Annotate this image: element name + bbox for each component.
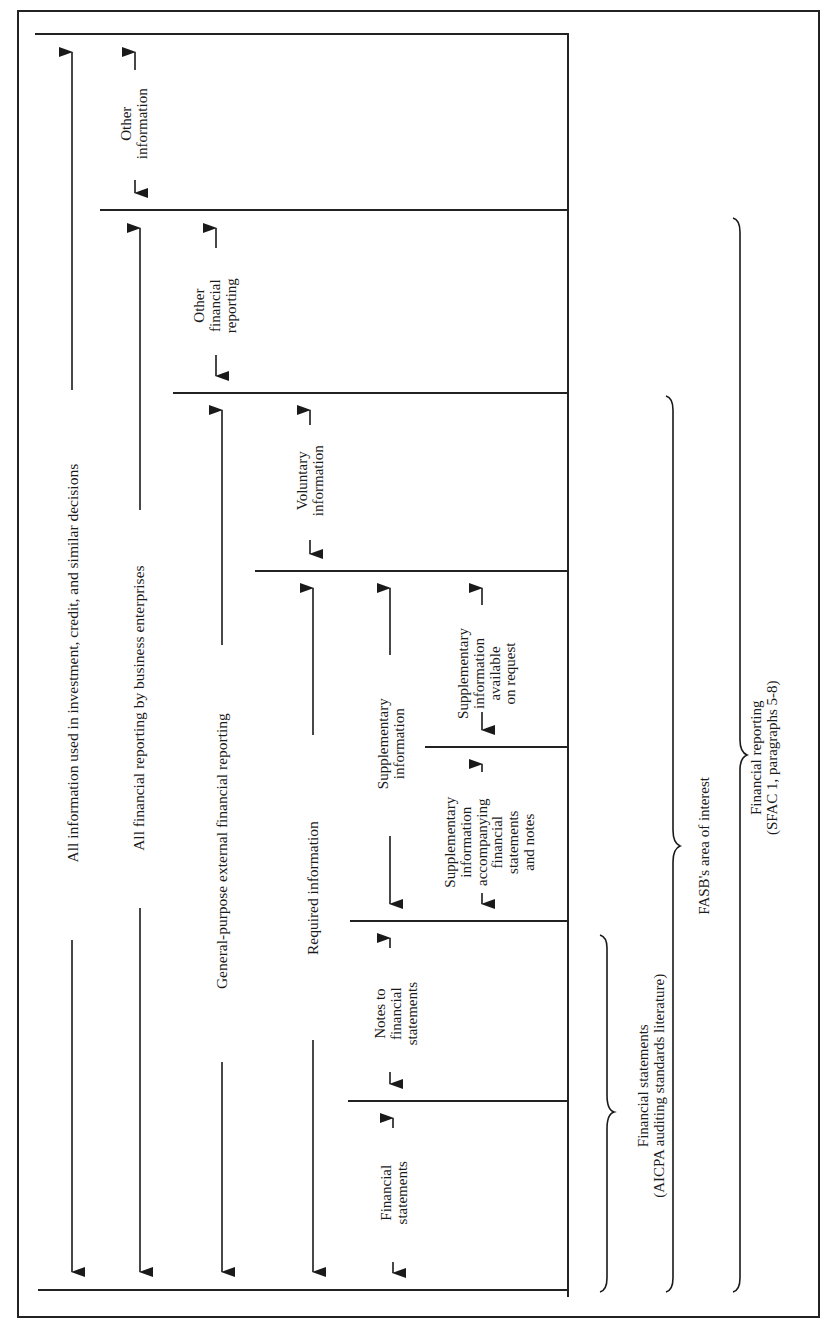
label-general-purpose: General-purpose external financial repor… [214,691,230,1011]
label-required-information: Required information [305,803,321,973]
brace-label-financial-reporting: Financial reporting(SFAC 1, paragraphs 5… [749,673,781,843]
brace-fasb [666,396,680,1292]
financial-reporting-scope-diagram: All information used in investment, cred… [0,0,829,1342]
arrows-and-braces [0,0,829,1342]
label-all-information: All information used in investment, cred… [65,438,81,888]
label-voluntary-information: Voluntaryinformation [295,436,327,526]
label-supplementary-accompanying: Supplementaryinformationaccompanyingfina… [443,782,538,902]
brace-label-financial-statements: Financial statements(AICPA auditing stan… [636,966,668,1206]
brace-label-fasb-area: FASB's area of interest [697,761,713,931]
label-notes-to-financial-statements: Notes tofinancialstatements [373,964,420,1064]
label-supplementary-information: Supplementaryinformation [376,689,408,799]
label-all-financial-reporting: All financial reporting by business ente… [131,533,147,883]
brace-financial-statements [600,935,614,1292]
label-supplementary-on-request: Supplementaryinformationavailableon requ… [456,619,519,729]
brace-financial-reporting [733,218,747,1292]
label-other-financial-reporting: Otherfinancialreporting [192,266,239,346]
label-other-information: Otherinformation [119,84,151,164]
label-financial-statements: Financialstatements [379,1148,411,1238]
